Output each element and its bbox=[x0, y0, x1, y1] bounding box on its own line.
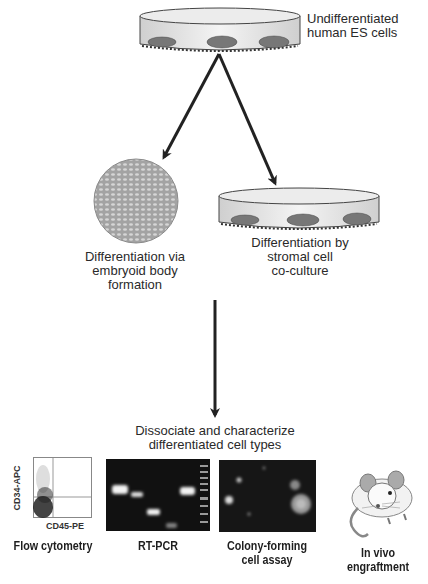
flow-cytometry-plot-icon bbox=[33, 457, 93, 519]
stromal-label-line2: stromal cell bbox=[225, 250, 375, 264]
flow-y-axis-label: CD34-APC bbox=[12, 458, 22, 518]
characterize-label-line2: differentiated cell types bbox=[90, 438, 340, 452]
es-cells-label-line1: Undifferentiated bbox=[307, 12, 427, 26]
stromal-label-line1: Differentiation by bbox=[225, 236, 375, 250]
flow-x-axis-label: CD45-PE bbox=[35, 521, 95, 531]
es-cells-label-line2: human ES cells bbox=[307, 26, 427, 40]
assay-label-rt-pcr: RT-PCR bbox=[115, 539, 201, 553]
es-cell-culture-dish-icon bbox=[138, 6, 302, 54]
stromal-coculture-dish-icon bbox=[217, 186, 381, 232]
embryoid-body-icon bbox=[92, 157, 180, 245]
arrow-to-embryoid-body bbox=[164, 54, 219, 157]
assay-label-flow-cytometry: Flow cytometry bbox=[10, 539, 96, 553]
assay-label-invivo-line1: In vivo bbox=[335, 546, 421, 560]
stromal-label-line3: co-culture bbox=[225, 264, 375, 278]
arrow-to-stromal-coculture bbox=[219, 54, 275, 183]
rt-pcr-gel-image bbox=[106, 459, 210, 531]
characterize-label-line1: Dissociate and characterize bbox=[90, 424, 340, 438]
assay-label-colony-line1: Colony-forming bbox=[224, 539, 310, 553]
assay-label-colony-line2: cell assay bbox=[224, 553, 310, 567]
embryoid-label-line2: embryoid body bbox=[60, 264, 210, 278]
colony-forming-photo bbox=[219, 460, 316, 532]
assay-label-invivo-line2: engraftment bbox=[335, 560, 421, 574]
mouse-icon bbox=[342, 468, 418, 544]
embryoid-label-line3: formation bbox=[60, 278, 210, 292]
embryoid-label-line1: Differentiation via bbox=[60, 250, 210, 264]
